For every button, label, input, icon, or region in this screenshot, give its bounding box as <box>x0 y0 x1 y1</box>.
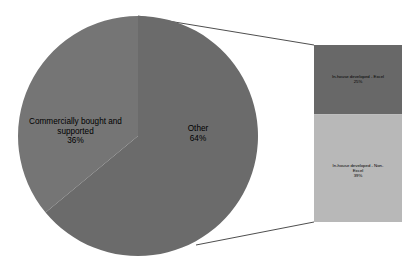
bar-segment-excel[interactable] <box>314 45 402 114</box>
chart-canvas <box>0 0 415 267</box>
bar-group <box>314 45 402 222</box>
bar-of-pie-chart: Commercially bought and supported 36% Ot… <box>0 0 415 267</box>
pie-group <box>18 16 258 256</box>
bar-segment-non-excel[interactable] <box>314 114 402 222</box>
